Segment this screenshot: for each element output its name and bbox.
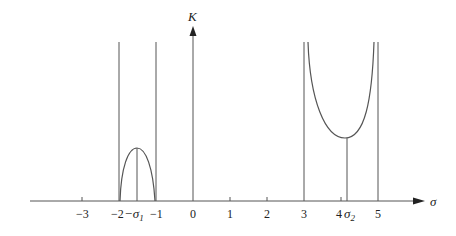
k-axis-arrow-icon (190, 26, 197, 36)
tick-label-1: 1 (227, 207, 233, 221)
sigma-axis-label: σ (430, 194, 437, 209)
tick-label-minus-3: −3 (76, 207, 89, 221)
tick-label-3: 3 (301, 207, 307, 221)
k-axis: K (187, 9, 198, 201)
k-axis-label: K (187, 9, 198, 24)
tick-label-2: 2 (264, 207, 270, 221)
curves (120, 42, 374, 201)
tick-label-0: 0 (190, 207, 196, 221)
sigma-axis-arrow-icon (413, 198, 425, 205)
right-cup-curve (308, 42, 374, 138)
vertical-lines (119, 42, 378, 201)
sigma2-label: σ2 (344, 206, 355, 223)
tick-label-5: 5 (375, 207, 381, 221)
tick-labels: −3 −2 −1 0 1 2 3 4 5 (76, 207, 381, 221)
tick-label-minus-1: −1 (150, 207, 163, 221)
tick-label-4: 4 (336, 207, 342, 221)
sigma1-label: −σ1 (124, 206, 144, 223)
tick-label-minus-2: −2 (111, 207, 124, 221)
tick-marks (82, 197, 341, 201)
root-locus-diagram: σ K −3 −2 −1 0 1 2 3 4 5 − (0, 0, 456, 236)
